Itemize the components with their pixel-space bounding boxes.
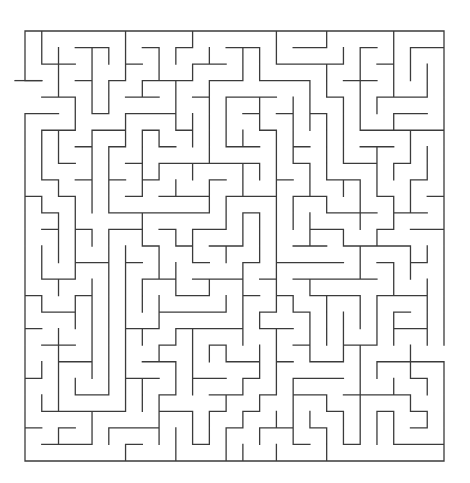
- maze-background: [0, 0, 470, 483]
- maze-puzzle: [0, 0, 470, 483]
- maze-page: [0, 0, 470, 483]
